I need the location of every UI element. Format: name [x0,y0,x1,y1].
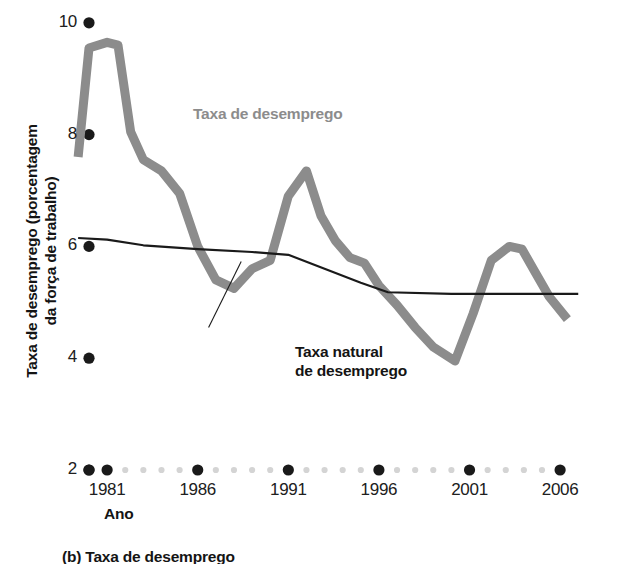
x-tick-label: 1986 [168,480,228,500]
x-tick-label: 1991 [258,480,318,500]
y-tick-label: 8 [43,124,77,144]
y-tick-label: 6 [43,235,77,255]
x-axis-minor-ticks [86,467,545,473]
y-tick-label: 2 [43,459,77,479]
figure-caption: (b) Taxa de desemprego [62,548,235,564]
x-tick-label: 1981 [77,480,137,500]
x-tick-label: 2001 [440,480,500,500]
x-tick-label: 2006 [530,480,590,500]
chart-series-layer [78,42,578,361]
y-tick-label: 10 [43,12,77,32]
x-axis-label: Ano [104,505,134,523]
unemployment-chart-figure: Taxa de desemprego (porcentagem da força… [0,0,639,564]
x-tick-label: 1996 [349,480,409,500]
natural-rate-label: Taxa natural de desemprego [295,342,407,380]
y-tick-label: 4 [43,347,77,367]
unemployment-rate-label: Taxa de desemprego [193,104,342,123]
